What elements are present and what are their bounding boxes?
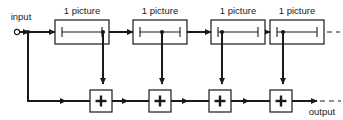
branch-node-tap-2: [160, 30, 164, 34]
diagram-canvas: 1 picture 1 picture 1 picture 1 picture: [0, 0, 343, 120]
delay-block-4-label: 1 picture: [279, 5, 315, 16]
delay-block-3: [211, 20, 265, 44]
branch-node-tap-1: [101, 30, 105, 34]
delay-block-2-label: 1 picture: [142, 5, 178, 16]
adder-3: [209, 90, 231, 112]
input-terminal-icon: [14, 29, 19, 34]
branch-node-input: [26, 30, 30, 34]
branch-node-tap-4: [281, 30, 285, 34]
adder-1: [90, 90, 112, 112]
delay-block-1-label: 1 picture: [64, 5, 100, 16]
branch-node-tap-3: [220, 30, 224, 34]
delay-block-4: [270, 20, 324, 44]
block-diagram-figure: 1 picture 1 picture 1 picture 1 picture: [0, 0, 343, 120]
input-label: input: [11, 11, 32, 22]
delay-block-3-label: 1 picture: [220, 5, 256, 16]
output-label: output: [309, 106, 336, 117]
adder-2: [149, 90, 171, 112]
adder-4: [270, 90, 292, 112]
